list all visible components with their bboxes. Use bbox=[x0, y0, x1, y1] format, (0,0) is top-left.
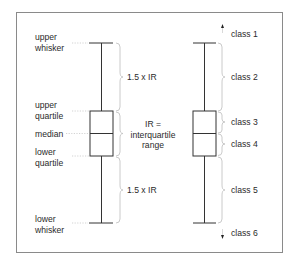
upper-whisker-label-line2: whisker bbox=[34, 43, 64, 53]
lower-quartile-label-line1: lower bbox=[35, 147, 56, 157]
lower-quartile-label-line2: quartile bbox=[35, 158, 63, 168]
upper-range-annotation: 1.5 x IR bbox=[127, 72, 157, 82]
median-label: median bbox=[35, 129, 63, 139]
upper-quartile-label-line1: upper bbox=[35, 100, 57, 110]
class-4-label: class 4 bbox=[231, 139, 258, 149]
iqr-annotation-line2: interquartile bbox=[131, 130, 176, 140]
boxplot-diagram: upper whisker upper quartile median lowe… bbox=[0, 0, 293, 267]
iqr-annotation-line3: range bbox=[142, 140, 164, 150]
upper-quartile-label-line2: quartile bbox=[35, 111, 63, 121]
lower-whisker-label-line1: lower bbox=[35, 214, 56, 224]
class-1-label: class 1 bbox=[231, 29, 258, 39]
iqr-annotation-line1: IR = bbox=[145, 119, 161, 129]
class-3-label: class 3 bbox=[231, 117, 258, 127]
class-6-label: class 6 bbox=[231, 228, 258, 238]
upper-whisker-label-line1: upper bbox=[35, 32, 57, 42]
class-2-label: class 2 bbox=[231, 72, 258, 82]
lower-whisker-label-line2: whisker bbox=[34, 225, 64, 235]
class-5-label: class 5 bbox=[231, 185, 258, 195]
lower-range-annotation: 1.5 x IR bbox=[127, 185, 157, 195]
